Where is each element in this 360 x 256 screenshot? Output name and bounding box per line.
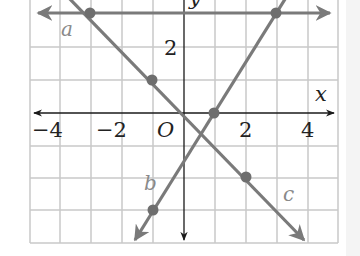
x-tick-label-4: 4 (301, 120, 314, 141)
x-tick-label-2: 2 (239, 120, 252, 141)
point-c-low (241, 172, 252, 183)
x-axis-label: x (315, 84, 327, 105)
y-tick-label-2: 2 (164, 38, 177, 59)
x-tick-label-neg2: −2 (96, 120, 127, 141)
line-c-label: c (283, 184, 294, 204)
line-b-label: b (144, 173, 157, 193)
y-axis-label: y (189, 0, 201, 9)
point-b-xint (209, 108, 220, 119)
point-b-low (148, 205, 159, 216)
point-a-left (85, 8, 96, 19)
line-a-label: a (61, 19, 73, 39)
origin-label: O (157, 120, 174, 141)
page-edge-shade (346, 0, 360, 256)
x-tick-label-neg4: −4 (32, 120, 63, 141)
point-a-right (271, 8, 282, 19)
point-c-mid (147, 75, 158, 86)
